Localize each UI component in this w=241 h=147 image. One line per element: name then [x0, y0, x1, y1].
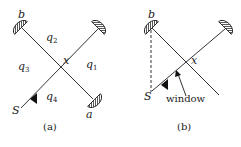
label-window: window	[166, 93, 206, 104]
label-q3: q3	[18, 60, 30, 74]
panel-a: b x S a q2 q3 q1 q4 (a)	[10, 8, 108, 132]
label-s: S	[144, 90, 152, 103]
label-q1: q1	[86, 58, 98, 72]
arrow-head-icon	[175, 70, 181, 77]
panel-b: b x S window (b)	[141, 8, 235, 132]
label-a: a	[86, 108, 93, 121]
label-q2: q2	[46, 31, 58, 45]
label-x: x	[191, 54, 198, 67]
label-b: b	[148, 8, 155, 21]
diagram-canvas: b x S a q2 q3 q1 q4 (a) b x S window (b)	[0, 0, 241, 147]
obstacle-top-right-icon	[92, 17, 109, 34]
caption-a: (a)	[43, 121, 57, 132]
label-b: b	[18, 8, 25, 21]
label-q4: q4	[46, 90, 58, 104]
label-x: x	[63, 54, 70, 67]
caption-b: (b)	[177, 121, 191, 132]
label-s: S	[12, 104, 20, 117]
